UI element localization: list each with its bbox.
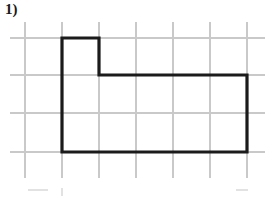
worksheet-figure-page: 1) bbox=[0, 0, 268, 201]
l-shape-outline bbox=[62, 38, 247, 152]
l-shaped-polygon-figure bbox=[0, 0, 268, 201]
